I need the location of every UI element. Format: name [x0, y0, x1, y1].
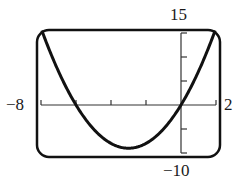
parabola-curve: [42, 31, 215, 149]
calculator-screen-frame: [37, 30, 220, 157]
plot-area: [0, 0, 235, 184]
axes: [41, 33, 216, 153]
